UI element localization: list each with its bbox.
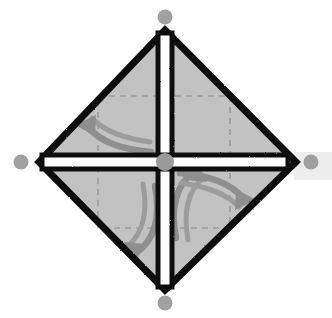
diamond-transform-figure <box>0 0 332 318</box>
handle-top[interactable] <box>158 10 173 25</box>
figure-canvas <box>0 0 332 318</box>
handle-bottom[interactable] <box>158 296 173 311</box>
handle-center[interactable] <box>156 153 174 171</box>
handle-right[interactable] <box>304 155 319 170</box>
handle-left[interactable] <box>14 155 29 170</box>
